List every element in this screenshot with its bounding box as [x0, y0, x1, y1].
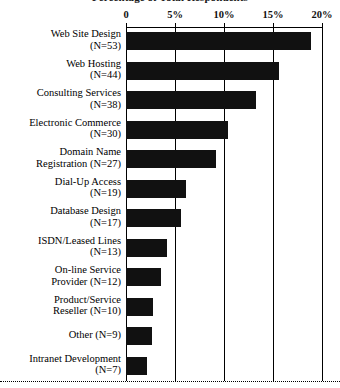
bar-row[interactable]	[126, 234, 322, 264]
category-label-line1: Consulting Services	[0, 87, 121, 99]
bar-row[interactable]	[126, 352, 322, 382]
category-label-line1: Electronic Commerce	[0, 117, 121, 129]
category-label-line1: Intranet Development	[0, 353, 121, 365]
category-label-line1: Product/Service	[0, 294, 121, 306]
bar-0[interactable]	[126, 32, 311, 50]
category-label-line1: On-line Service	[0, 264, 121, 276]
bar-row[interactable]	[126, 322, 322, 352]
category-label-line1: Web Hosting	[0, 58, 121, 70]
category-label-line2: Registration (N=27)	[0, 158, 121, 170]
category-label-line2: (N=19)	[0, 187, 121, 199]
category-label-line1: Database Design	[0, 205, 121, 217]
category-label-7: ISDN/Leased Lines(N=13)	[0, 235, 121, 258]
x-axis-tick-labels: 05%10%15%20%	[0, 9, 340, 23]
bar-row[interactable]	[126, 145, 322, 175]
bar-4[interactable]	[126, 150, 216, 168]
category-label-2: Consulting Services(N=38)	[0, 87, 121, 110]
bar-2[interactable]	[126, 91, 256, 109]
bar-row[interactable]	[126, 293, 322, 323]
plot-area	[126, 27, 322, 381]
bar-5[interactable]	[126, 180, 186, 198]
x-tick-label-0: 0	[123, 9, 128, 20]
category-label-line1: Dial-Up Access	[0, 176, 121, 188]
bar-10[interactable]	[126, 327, 152, 345]
category-label-line2: (N=7)	[0, 364, 121, 376]
category-label-line1: Web Site Design	[0, 28, 121, 40]
category-label-8: On-line ServiceProvider (N=12)	[0, 264, 121, 287]
x-tick-label-3: 15%	[263, 9, 284, 20]
category-label-4: Domain NameRegistration (N=27)	[0, 146, 121, 169]
bar-11[interactable]	[126, 357, 147, 375]
bar-series	[126, 27, 322, 381]
x-tick-label-2: 10%	[214, 9, 235, 20]
category-label-line1: ISDN/Leased Lines	[0, 235, 121, 247]
bar-8[interactable]	[126, 268, 161, 286]
x-tick-label-4: 20%	[312, 9, 333, 20]
axis-line-bottom	[0, 381, 340, 382]
x-tick-label-1: 5%	[167, 9, 183, 20]
category-label-1: Web Hosting(N=44)	[0, 58, 121, 81]
category-label-6: Database Design(N=17)	[0, 205, 121, 228]
category-label-line2: (N=30)	[0, 128, 121, 140]
bar-chart: Percentage of Total Respondents 05%10%15…	[0, 0, 340, 388]
category-label-line2: (N=13)	[0, 246, 121, 258]
bar-row[interactable]	[126, 204, 322, 234]
category-label-line2: Provider (N=12)	[0, 276, 121, 288]
bar-row[interactable]	[126, 116, 322, 146]
bar-7[interactable]	[126, 239, 167, 257]
bar-1[interactable]	[126, 62, 279, 80]
category-label-11: Intranet Development(N=7)	[0, 353, 121, 376]
gridline-4	[322, 27, 323, 381]
bar-row[interactable]	[126, 175, 322, 205]
bar-9[interactable]	[126, 298, 153, 316]
category-label-0: Web Site Design(N=53)	[0, 28, 121, 51]
category-label-line2: (N=53)	[0, 40, 121, 52]
category-label-line2: Other (N=9)	[0, 329, 121, 341]
category-label-line2: Reseller (N=10)	[0, 305, 121, 317]
bar-3[interactable]	[126, 121, 228, 139]
category-axis-labels: Web Site Design(N=53)Web Hosting(N=44)Co…	[0, 27, 124, 381]
category-label-line2: (N=17)	[0, 217, 121, 229]
bar-row[interactable]	[126, 27, 322, 57]
category-label-line2: (N=38)	[0, 99, 121, 111]
category-label-10: Other (N=9)	[0, 329, 121, 341]
x-tickmark-4	[322, 23, 323, 28]
bar-row[interactable]	[126, 57, 322, 87]
category-label-line2: (N=44)	[0, 69, 121, 81]
category-label-3: Electronic Commerce(N=30)	[0, 117, 121, 140]
bar-6[interactable]	[126, 209, 181, 227]
chart-title: Percentage of Total Respondents	[0, 0, 340, 3]
bar-row[interactable]	[126, 86, 322, 116]
category-label-9: Product/ServiceReseller (N=10)	[0, 294, 121, 317]
category-label-line1: Domain Name	[0, 146, 121, 158]
bar-row[interactable]	[126, 263, 322, 293]
category-label-5: Dial-Up Access(N=19)	[0, 176, 121, 199]
